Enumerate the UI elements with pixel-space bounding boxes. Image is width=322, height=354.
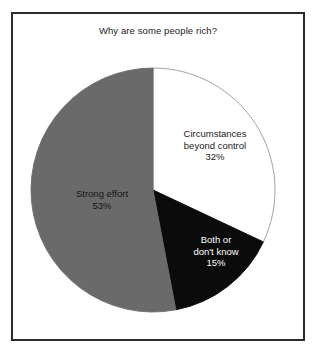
slice-label-line1: Both or: [201, 234, 232, 245]
slice-label-line1: Strong effort: [76, 188, 128, 199]
slice-label-line1: Circumstances: [184, 128, 247, 139]
pie-chart-figure: Why are some people rich? Circumstances …: [0, 0, 322, 354]
slice-label-circumstances: Circumstances beyond control 32%: [162, 128, 268, 163]
slice-label-line2: beyond control: [184, 140, 246, 151]
slice-value-circumstances: 32%: [162, 151, 268, 163]
slice-label-line2: don't know: [193, 246, 238, 257]
slice-value-strong-effort: 53%: [52, 200, 152, 212]
slice-label-strong-effort: Strong effort 53%: [52, 188, 152, 211]
slice-value-both-or-dont-know: 15%: [168, 257, 264, 269]
slice-label-both-or-dont-know: Both or don't know 15%: [168, 234, 264, 269]
pie-graphic: [0, 0, 322, 354]
